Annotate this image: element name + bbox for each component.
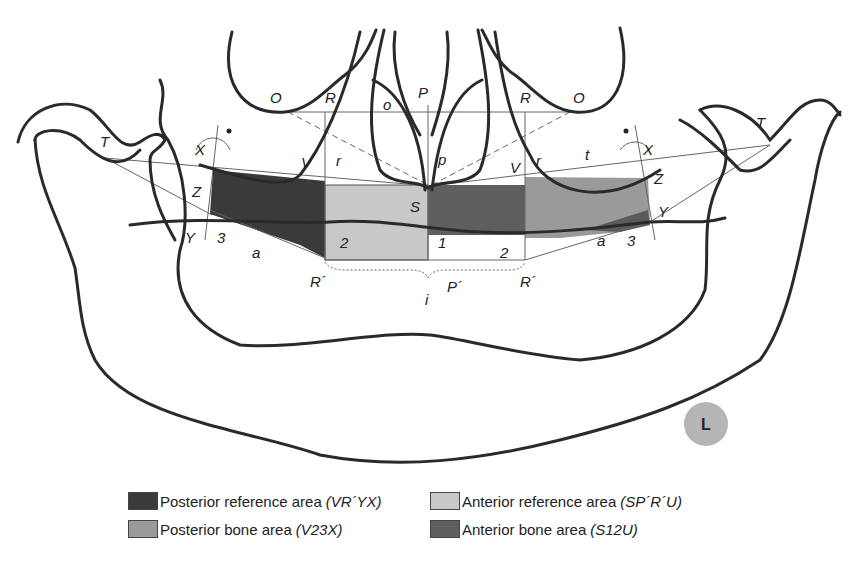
label-V-right: V <box>510 159 522 176</box>
swatch-anterior-reference <box>430 492 460 510</box>
label-1: 1 <box>438 234 446 251</box>
legend-label: Anterior bone area <box>462 521 586 538</box>
legend-item-anterior-bone: Anterior bone area (S12U) <box>430 520 732 538</box>
label-R-prime-right: R´ <box>520 273 536 290</box>
label-Y-right: Y <box>658 203 669 220</box>
swatch-anterior-bone <box>430 520 460 538</box>
label-Z-right: Z <box>653 170 664 187</box>
right-angle-dot-right <box>624 129 629 134</box>
swatch-posterior-reference <box>128 492 158 510</box>
label-R-right: R <box>520 89 531 106</box>
side-badge: L <box>684 402 728 446</box>
label-O-left: O <box>270 89 282 106</box>
label-a-left: a <box>252 244 260 261</box>
label-S: S <box>410 198 420 215</box>
label-P-prime: P´ <box>447 278 462 295</box>
label-3-left: 3 <box>217 229 226 246</box>
label-X-right: X <box>642 141 654 158</box>
label-t: t <box>585 146 590 163</box>
label-a-right: a <box>597 232 605 249</box>
legend-item-posterior-reference: Posterior reference area (VR´YX) <box>128 492 430 510</box>
swatch-posterior-bone <box>128 520 158 538</box>
label-p: p <box>437 151 446 168</box>
legend-label: Anterior reference area <box>462 493 616 510</box>
legend-label: Posterior reference area <box>160 493 322 510</box>
legend-item-anterior-reference: Anterior reference area (SP´R´U) <box>430 492 732 510</box>
label-i: i <box>425 291 429 308</box>
label-P: P <box>418 84 428 101</box>
label-R-left: R <box>325 89 336 106</box>
label-Y-left: Y <box>185 229 196 246</box>
right-angle-dot-left <box>227 129 232 134</box>
label-o: o <box>383 96 391 113</box>
legend-code: (V23X) <box>296 521 343 538</box>
label-r-right: r <box>536 152 542 169</box>
legend: Posterior reference area (VR´YX) Anterio… <box>128 487 748 543</box>
legend-code: (SP´R´U) <box>620 493 682 510</box>
legend-label: Posterior bone area <box>160 521 292 538</box>
side-badge-label: L <box>701 416 711 433</box>
legend-item-posterior-bone: Posterior bone area (V23X) <box>128 520 430 538</box>
label-X-left: X <box>194 141 206 158</box>
legend-code: (S12U) <box>590 521 638 538</box>
label-T-right: T <box>756 114 767 131</box>
label-2-left: 2 <box>339 234 349 251</box>
label-r-left: r <box>336 152 342 169</box>
label-Z-left: Z <box>191 183 202 200</box>
label-3-right: 3 <box>627 232 636 249</box>
label-R-prime-left: R´ <box>310 273 326 290</box>
label-O-right: O <box>573 89 585 106</box>
anatomical-outlines <box>18 28 840 462</box>
label-T-left: T <box>100 133 111 150</box>
label-2-right: 2 <box>499 244 509 261</box>
mandible-sinus-diagram: O R o P R O T T X X V V r r p t Z Z Y Y … <box>0 0 850 470</box>
legend-code: (VR´YX) <box>326 493 382 510</box>
